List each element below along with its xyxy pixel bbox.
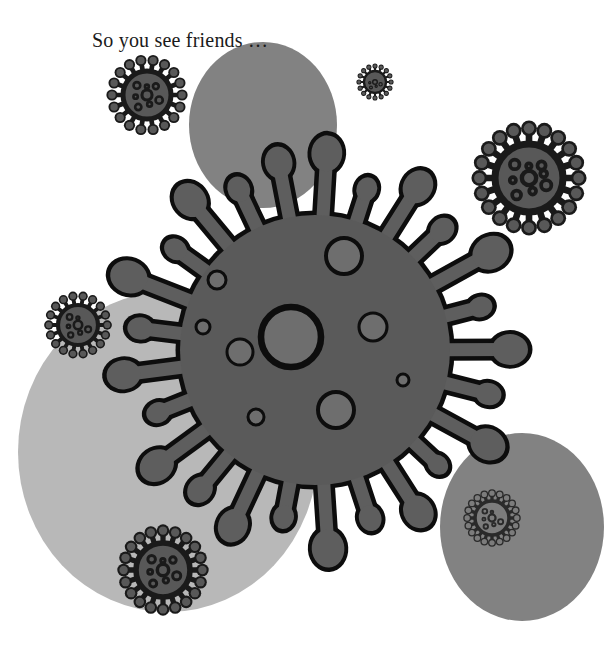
small-virus-left-pore-5 (76, 316, 79, 319)
small-virus-top-tiny-knob-6 (362, 92, 365, 95)
small-virus-bottom-left-pore-4 (148, 555, 156, 563)
small-virus-upper-left-knob-4 (149, 126, 156, 133)
small-virus-right-knob-10 (474, 173, 485, 184)
small-virus-upper-left-knob-14 (149, 57, 156, 64)
small-virus-upper-left-pore-6 (153, 83, 159, 89)
small-virus-upper-left-center-pore (142, 90, 152, 100)
main-virus-pore-4 (196, 320, 210, 334)
small-virus-right (471, 120, 586, 235)
small-virus-left-knob-2 (97, 341, 103, 347)
small-virus-right-knob-3 (553, 213, 564, 224)
small-virus-upper-left-knob-12 (126, 61, 133, 68)
small-virus-right-knob-15 (524, 123, 535, 134)
small-virus-bottom-left-knob-13 (136, 534, 144, 542)
small-virus-right-knob-18 (564, 144, 575, 155)
small-virus-right-pore-3 (510, 177, 516, 183)
small-virus-on-blob-knob-16 (497, 492, 502, 497)
small-virus-left-pore-2 (68, 332, 73, 337)
small-virus-bottom-left-knob-6 (147, 603, 155, 611)
small-virus-top-tiny-knob-5 (367, 95, 370, 98)
small-virus-upper-left-knob-0 (178, 91, 185, 98)
small-virus-on-blob-pore-3 (482, 518, 485, 521)
main-virus-pore-0 (326, 238, 362, 274)
small-virus-right-knob-16 (539, 126, 550, 137)
small-virus-left-knob-3 (90, 347, 96, 353)
small-virus-left-knob-17 (102, 312, 108, 318)
small-virus-upper-left-knob-10 (110, 79, 117, 86)
small-virus-on-blob-knob-14 (482, 492, 487, 497)
small-virus-top-tiny-pore-2 (370, 86, 373, 89)
small-virus-bottom-left-knob-10 (119, 566, 127, 574)
illustration-page: So you see friends … (0, 0, 613, 646)
small-virus-left-knob-15 (90, 297, 96, 303)
small-virus-right-knob-4 (539, 220, 550, 231)
small-virus-top-tiny-knob-10 (362, 69, 365, 72)
small-virus-bottom-left-knob-12 (127, 543, 135, 551)
small-virus-top-tiny-knob-1 (388, 86, 391, 89)
small-virus-on-blob-knob-1 (513, 523, 518, 528)
blob-bottom-right (440, 433, 604, 621)
small-virus-top-tiny-center-pore (373, 80, 378, 85)
small-virus-upper-left-pore-2 (135, 104, 141, 110)
small-virus-on-blob-knob-9 (466, 523, 471, 528)
small-virus-on-blob-pore-1 (492, 523, 495, 526)
small-virus-top-tiny-knob-11 (367, 65, 370, 68)
small-virus-bottom-left-knob-4 (171, 603, 179, 611)
small-virus-right-knob-11 (477, 157, 488, 168)
small-virus-right-knob-19 (571, 157, 582, 168)
small-virus-on-blob-knob-19 (513, 508, 518, 513)
small-virus-top-tiny-pore-0 (379, 83, 382, 86)
small-virus-bottom-left-pore-5 (161, 558, 165, 562)
small-virus-on-blob-pore-2 (484, 524, 488, 528)
small-virus-top-tiny-knob-13 (379, 65, 382, 68)
small-virus-top-tiny-knob-2 (385, 92, 388, 95)
small-virus-top-tiny-knob-9 (358, 74, 361, 77)
caption-text: So you see friends … (92, 28, 268, 52)
small-virus-upper-left-pore-5 (145, 85, 149, 89)
small-virus-right-pore-4 (510, 160, 520, 170)
small-virus-top-tiny-knob-0 (389, 80, 392, 83)
small-virus-top-tiny-knob-12 (373, 64, 376, 67)
small-virus-upper-left-knob-3 (161, 122, 168, 129)
small-virus-bottom-left-knob-0 (198, 566, 206, 574)
small-virus-on-blob-knob-13 (475, 495, 480, 500)
small-virus-left-knob-4 (80, 351, 86, 357)
small-virus-upper-left-knob-9 (108, 91, 115, 98)
small-virus-right-pore-2 (512, 191, 521, 200)
small-virus-right-pore-0 (541, 180, 551, 190)
small-virus-left-pore-3 (67, 325, 71, 329)
small-virus-left-pore-0 (85, 326, 91, 332)
small-virus-top-tiny-knob-3 (379, 95, 382, 98)
small-virus-left-pore-1 (78, 331, 82, 335)
small-virus-right-knob-5 (524, 222, 535, 233)
small-virus-on-blob-knob-6 (482, 539, 487, 544)
small-virus-right-pore-5 (526, 163, 531, 168)
small-virus-right-knob-0 (573, 173, 584, 184)
small-virus-upper-left-pore-1 (147, 102, 152, 107)
small-virus-left-knob-5 (70, 351, 76, 357)
small-virus-bottom-left-knob-5 (159, 605, 167, 613)
small-virus-on-blob-knob-2 (509, 530, 514, 535)
small-virus-on-blob-knob-5 (489, 540, 494, 545)
small-virus-right-knob-8 (484, 202, 495, 213)
small-virus-left-knob-14 (80, 293, 86, 299)
small-virus-top-tiny-pore-1 (375, 85, 377, 87)
small-virus-on-blob-knob-18 (509, 501, 514, 506)
small-virus-upper-left-knob-7 (116, 114, 123, 121)
small-virus-left-knob-6 (60, 347, 66, 353)
small-virus-left-knob-8 (47, 332, 53, 338)
small-virus-left-knob-0 (104, 322, 110, 328)
small-virus-bottom-left-pore-1 (163, 578, 168, 583)
small-virus-bottom-left-knob-8 (127, 589, 135, 597)
small-virus-on-blob-knob-4 (497, 539, 502, 544)
small-virus-right-pore-6 (537, 161, 545, 169)
main-virus-pore-7 (248, 409, 264, 425)
small-virus-right-pore-7 (540, 170, 547, 177)
small-virus-upper-left-knob-17 (176, 79, 183, 86)
small-virus-upper-left-knob-16 (170, 69, 177, 76)
small-virus-on-blob-knob-15 (489, 491, 494, 496)
small-virus-top-tiny-knob-8 (357, 80, 360, 83)
small-virus-top-tiny-knob-15 (388, 74, 391, 77)
small-virus-on-blob-knob-11 (466, 508, 471, 513)
small-virus-upper-left-knob-6 (126, 122, 133, 129)
